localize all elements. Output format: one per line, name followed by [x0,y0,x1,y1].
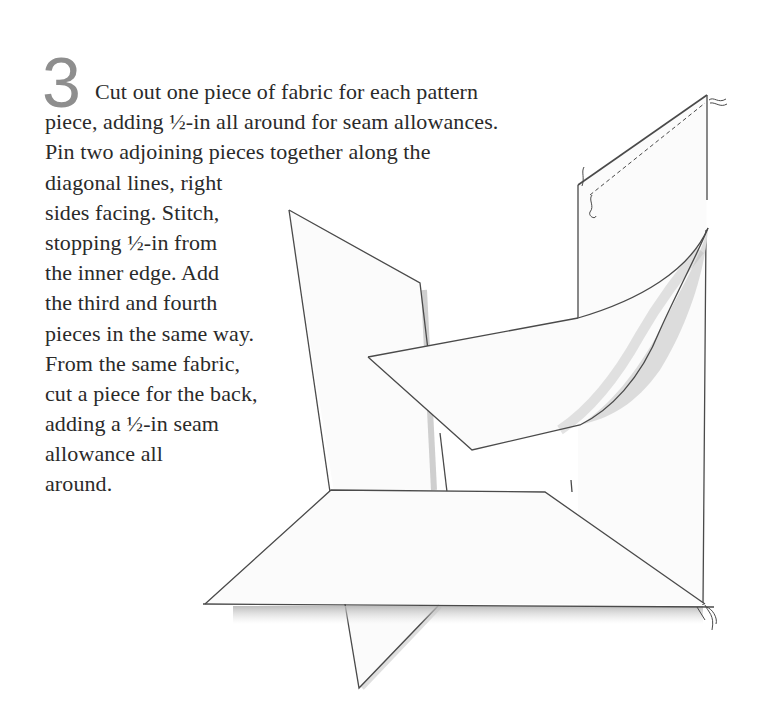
instruction-line: adding a ½-in seam [45,409,498,439]
instruction-line: diagonal lines, right [45,168,498,198]
instruction-line: around. [45,469,498,499]
instruction-line: Cut out one piece of fabric for each pat… [45,77,498,107]
back-fabric-piece [203,490,716,630]
instruction-line: stopping ½-in from [45,228,498,258]
instruction-line: cut a piece for the back, [45,379,498,409]
instruction-line: From the same fabric, [45,349,498,379]
instruction-line: piece, adding ½-in all around for seam a… [45,107,498,137]
instruction-line: the third and fourth [45,288,498,318]
right-fabric-piece [571,95,727,605]
bottom-triangle-piece [345,604,440,688]
instruction-line: allowance all [45,439,498,469]
instruction-line: the inner edge. Add [45,258,498,288]
instruction-line: pieces in the same way. [45,319,498,349]
instructions-text: Cut out one piece of fabric for each pat… [45,77,498,500]
instruction-line: sides facing. Stitch, [45,198,498,228]
instruction-line: Pin two adjoining pieces together along … [45,137,498,167]
